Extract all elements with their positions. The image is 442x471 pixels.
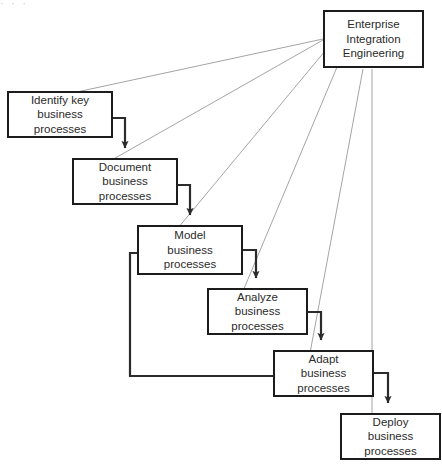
node-label-line: Document xyxy=(99,160,151,175)
governance-edge-to-analyze xyxy=(243,48,345,291)
flow-edge-adapt-to-deploy xyxy=(374,373,388,403)
node-label-line: Enterprise xyxy=(347,17,399,32)
node-label-line: processes xyxy=(99,189,151,204)
node-label-line: Identify key xyxy=(31,93,89,108)
node-label-line: Analyze xyxy=(237,290,278,305)
governance-edge-to-document xyxy=(110,40,323,161)
node-document-business-processes[interactable]: Document business processes xyxy=(72,158,178,205)
node-label-line: Adapt xyxy=(308,352,338,367)
node-adapt-business-processes[interactable]: Adapt business processes xyxy=(273,350,374,397)
node-deploy-business-processes[interactable]: Deploy business processes xyxy=(340,413,441,460)
node-enterprise-integration-engineering[interactable]: Enterprise Integration Engineering xyxy=(323,10,424,68)
node-label-line: processes xyxy=(34,122,86,137)
node-label-line: processes xyxy=(231,319,283,334)
node-label-line: Integration xyxy=(346,32,400,47)
node-label-line: business xyxy=(37,107,82,122)
process-flow-diagram: · · · Enterprise Integr xyxy=(0,0,442,471)
flow-edge-identify-to-document xyxy=(113,118,125,148)
node-label-line: processes xyxy=(297,381,349,396)
node-label-line: Model xyxy=(174,228,205,243)
node-label-line: business xyxy=(235,304,280,319)
node-label-line: processes xyxy=(364,444,416,459)
flow-edge-analyze-to-adapt xyxy=(308,312,321,340)
flow-edge-document-to-model xyxy=(178,185,190,215)
node-label-line: business xyxy=(368,429,413,444)
node-label-line: business xyxy=(102,174,147,189)
node-analyze-business-processes[interactable]: Analyze business processes xyxy=(207,288,308,335)
governance-edge-to-identify xyxy=(72,39,323,93)
node-label-line: business xyxy=(301,366,346,381)
node-label-line: business xyxy=(167,243,212,258)
node-model-business-processes[interactable]: Model business processes xyxy=(137,225,243,275)
node-label-line: Engineering xyxy=(343,46,404,61)
node-label-line: Deploy xyxy=(373,415,409,430)
node-label-line: processes xyxy=(164,257,216,272)
node-identify-key-business-processes[interactable]: Identify key business processes xyxy=(7,91,113,138)
governance-edge-to-model xyxy=(178,45,330,228)
